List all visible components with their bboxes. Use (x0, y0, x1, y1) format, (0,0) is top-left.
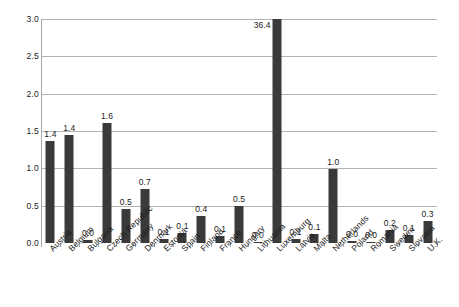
y-axis-tick-label: 1.5 (3, 127, 39, 136)
bar-value-label: 1.4 (63, 124, 75, 133)
x-axis-category-label: Denmark (143, 247, 149, 253)
bar-group: 1.0 (324, 19, 343, 243)
x-axis-category-label: Lithuania (256, 247, 262, 253)
bar-group: 0.0 (248, 19, 267, 243)
x-axis-category-label: Romania (369, 247, 375, 253)
x-axis-category-label: Hungary (237, 247, 243, 253)
bar-value-label: 36.4 (254, 21, 271, 30)
y-axis-tick-label: 2.0 (3, 90, 39, 99)
bar (46, 141, 55, 243)
y-axis-tick-label: 1.0 (3, 164, 39, 173)
bar-group: 0.5 (116, 19, 135, 243)
bars-layer: 1.41.40.01.60.50.70.10.10.40.10.50.036.4… (41, 19, 437, 243)
bar-value-label: 1.4 (44, 130, 56, 139)
bar-group: 0.1 (286, 19, 305, 243)
bar-group: 0.1 (211, 19, 230, 243)
y-axis-tick-label: 0.5 (3, 202, 39, 211)
y-axis: 3.02.52.01.51.00.50.0 (0, 0, 39, 307)
bar-group: 0.1 (305, 19, 324, 243)
x-axis-category-label: France (218, 247, 224, 253)
x-axis-category-label: Estonia (162, 247, 168, 253)
y-axis-tick-label: 2.5 (3, 52, 39, 61)
x-axis-category-label: Luxemburg (275, 247, 281, 253)
bar-value-label: 0.3 (422, 210, 434, 219)
bar-group: 0.4 (192, 19, 211, 243)
bar-group: 0.0 (79, 19, 98, 243)
x-axis-category-label: Spain (180, 247, 186, 253)
x-axis-category-label: Belgium (67, 247, 73, 253)
x-axis-category-label: Netherlands (331, 247, 337, 253)
x-axis-category-label: Bulgaria (86, 247, 92, 253)
bar-group: 0.0 (362, 19, 381, 243)
x-axis-category-label: Slovakia (407, 247, 413, 253)
x-axis-category-label: U.K. (426, 247, 432, 253)
x-axis-category-label: Sweden (388, 247, 394, 253)
bar-group: 0.2 (380, 19, 399, 243)
bar-value-label: 0.7 (139, 178, 151, 187)
bar-value-label: 0.5 (120, 198, 132, 207)
bar-group: 1.6 (98, 19, 117, 243)
bar-group: 1.4 (41, 19, 60, 243)
bar-group: 0.1 (154, 19, 173, 243)
y-axis-tick-label: 3.0 (3, 15, 39, 24)
x-axis-category-label: Austria (48, 247, 54, 253)
bar-group: 0.0 (343, 19, 362, 243)
bar (272, 19, 281, 243)
bar-group: 0.1 (173, 19, 192, 243)
bar-value-label: 1.6 (101, 112, 113, 121)
bar-group: 1.4 (60, 19, 79, 243)
x-axis-labels: AustriaBelgiumBulgariaCzech RepublicGerm… (41, 247, 437, 307)
bar-group: 0.5 (230, 19, 249, 243)
y-axis-tick-label: 0.0 (3, 239, 39, 248)
bar (329, 169, 338, 243)
bar-group: 0.3 (418, 19, 437, 243)
x-axis-category-label: Poland (350, 247, 356, 253)
x-axis-category-label: Germany (124, 247, 130, 253)
bar-group: 0.1 (399, 19, 418, 243)
bar-value-label: 0.4 (195, 205, 207, 214)
bar-chart: 3.02.52.01.51.00.50.0 1.41.40.01.60.50.7… (0, 0, 459, 307)
x-axis-category-label: Latvia (294, 247, 300, 253)
bar-value-label: 1.0 (327, 158, 339, 167)
bar-value-label: 0.5 (233, 195, 245, 204)
x-axis-category-label: Finland (199, 247, 205, 253)
bar-group: 36.4 (267, 19, 286, 243)
x-axis-category-label: Malta (312, 247, 318, 253)
x-axis-category-label: Czech Republic (105, 247, 111, 253)
